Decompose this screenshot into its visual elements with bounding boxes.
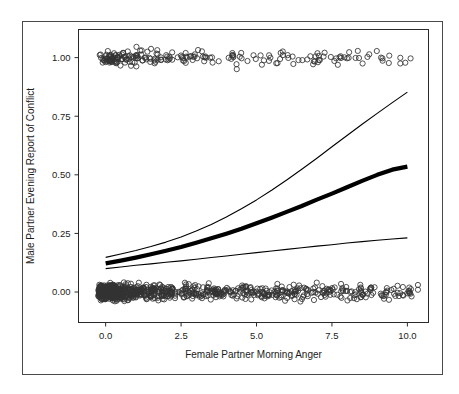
y-axis-title: Male Partner Evening Report of Conflict xyxy=(25,88,36,264)
x-tick-label: 0.0 xyxy=(99,330,112,341)
x-tick-label: 7.5 xyxy=(325,330,338,341)
x-axis-ticks xyxy=(106,323,408,327)
y-tick-label: 0.00 xyxy=(52,286,71,297)
x-axis-tick-labels: 0.02.55.07.510.0 xyxy=(99,330,417,341)
x-tick-label: 2.5 xyxy=(174,330,187,341)
scatter-plot-with-logistic-fit: 0.000.250.500.751.00 0.02.55.07.510.0 Fe… xyxy=(0,0,459,394)
x-tick-label: 10.0 xyxy=(398,330,417,341)
figure-root: 0.000.250.500.751.00 0.02.55.07.510.0 Fe… xyxy=(0,0,459,394)
x-tick-label: 5.0 xyxy=(250,330,263,341)
y-tick-label: 1.00 xyxy=(52,52,71,63)
y-axis-tick-labels: 0.000.250.500.751.00 xyxy=(52,52,71,297)
y-tick-label: 0.75 xyxy=(52,111,71,122)
y-axis-ticks xyxy=(75,58,79,292)
y-tick-label: 0.50 xyxy=(52,169,71,180)
x-axis-title: Female Partner Morning Anger xyxy=(185,349,322,360)
y-tick-label: 0.25 xyxy=(52,228,71,239)
